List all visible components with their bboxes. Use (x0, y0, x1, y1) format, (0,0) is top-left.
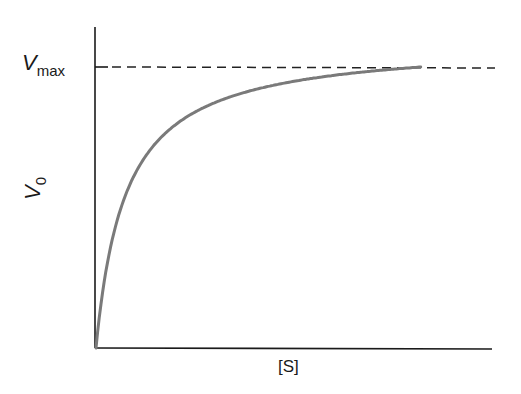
y-axis-label-sub: 0 (32, 177, 49, 185)
y-axis-label-main: V (20, 185, 45, 200)
vmax-label: Vmax (22, 52, 65, 74)
vmax-label-main: V (22, 50, 37, 75)
x-axis-label: [S] (278, 358, 299, 375)
michaelis-menten-plot (0, 0, 521, 394)
vmax-asymptote-line (112, 67, 495, 68)
saturation-curve (96, 67, 421, 348)
y-axis-label: V0 (22, 177, 44, 200)
x-axis (95, 348, 492, 349)
vmax-label-sub: max (37, 62, 65, 79)
